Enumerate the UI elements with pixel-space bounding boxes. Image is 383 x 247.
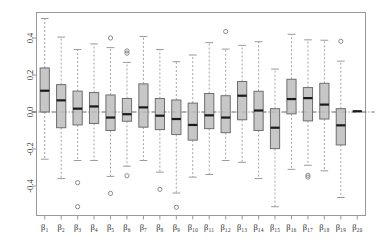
box-group <box>254 42 263 179</box>
box-group <box>353 111 362 112</box>
box-body <box>172 100 181 135</box>
box-body <box>188 103 197 140</box>
box-body <box>89 93 98 124</box>
box-group <box>73 49 82 208</box>
box-group <box>40 19 49 160</box>
x-tick-label: β₇ <box>140 222 147 232</box>
x-tick-label: β₁ <box>41 222 48 232</box>
box-group <box>57 37 66 179</box>
y-tick-label: -0.2 <box>25 142 35 155</box>
x-tick-label: β₁₃ <box>237 222 247 232</box>
box-body <box>238 81 247 119</box>
box-body <box>320 83 329 119</box>
box-body <box>155 98 164 129</box>
box-group <box>139 37 148 161</box>
box-body <box>287 79 296 114</box>
x-tick-label: β₁₉ <box>336 222 346 232</box>
y-tick-label: 0.4 <box>25 32 35 43</box>
box-body <box>106 95 115 131</box>
box-group <box>106 36 115 196</box>
x-tick-label: β₂₀ <box>352 222 362 232</box>
boxplot-svg: 0.40.20.0-0.2-0.4β₁β₂β₃β₄β₅β₆β₇β₈β₉β₁₀β₁… <box>0 0 383 247</box>
plot-frame <box>37 13 366 216</box>
outlier-point <box>224 29 228 33</box>
box-group <box>221 29 230 160</box>
outlier-point <box>76 205 80 209</box>
box-group <box>172 62 181 210</box>
box-group <box>155 49 164 191</box>
x-tick-label: β₁₂ <box>221 222 231 232</box>
box-group <box>336 39 345 197</box>
outlier-point <box>174 205 178 209</box>
box-body <box>221 96 230 133</box>
box-body <box>139 84 148 127</box>
x-tick-label: β₁₁ <box>204 222 214 232</box>
x-tick-label: β₁₄ <box>253 222 263 232</box>
x-tick-label: β₄ <box>90 222 97 232</box>
outlier-point <box>125 174 129 178</box>
box-group <box>122 49 131 178</box>
box-group <box>320 40 329 171</box>
box-group <box>287 34 296 169</box>
y-tick-label: 0.2 <box>25 70 35 81</box>
x-tick-label: β₁₇ <box>303 222 313 232</box>
box-group <box>205 43 214 175</box>
box-body <box>122 98 131 121</box>
boxplot-chart: 0.40.20.0-0.2-0.4β₁β₂β₃β₄β₅β₆β₇β₈β₉β₁₀β₁… <box>0 0 383 247</box>
x-tick-label: β₁₅ <box>270 222 280 232</box>
x-tick-label: β₁₈ <box>319 222 329 232</box>
box-group <box>270 69 279 207</box>
box-body <box>57 85 66 128</box>
outlier-point <box>158 187 162 191</box>
x-tick-label: β₁₀ <box>188 222 198 232</box>
x-tick-label: β₅ <box>107 222 114 232</box>
box-group <box>238 45 247 162</box>
x-tick-label: β₆ <box>123 222 130 232</box>
x-tick-label: β₂ <box>58 222 65 232</box>
outlier-point <box>108 36 112 40</box>
outlier-point <box>339 39 343 43</box>
box-body <box>336 109 345 145</box>
x-tick-label: β₉ <box>173 222 180 232</box>
box-group <box>303 40 312 179</box>
y-tick-label: -0.4 <box>25 179 35 193</box>
box-body <box>303 88 312 121</box>
x-tick-label: β₈ <box>156 222 163 232</box>
x-tick-label: β₁₆ <box>286 222 296 232</box>
box-group <box>89 44 98 161</box>
box-group <box>188 55 197 177</box>
outlier-point <box>76 181 80 185</box>
outlier-point <box>108 191 112 195</box>
x-tick-label: β₃ <box>74 222 81 232</box>
box-body <box>205 94 214 129</box>
